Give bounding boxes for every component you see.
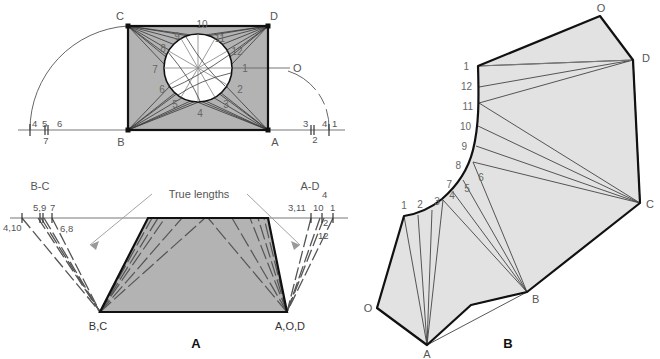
baseline-right-label-1: 1 (332, 118, 337, 129)
top-view-label-B: B (117, 136, 124, 148)
development-label-A: A (423, 348, 431, 359)
right-group-label-10: 10 (313, 202, 324, 213)
drawing-canvas: C D B A O 1 2 3 4 5 6 7 8 9 10 11 12 4 5… (0, 0, 660, 359)
right-group-header-sub: 4 (322, 189, 327, 200)
true-length-diagram-group: True lengths B-C 5,9 7 4,10 6,8 B,C A-D … (3, 180, 348, 351)
circle-point-8: 8 (160, 43, 166, 54)
development-upper-point-1: 1 (463, 61, 469, 72)
development-label-D: D (642, 52, 650, 64)
right-group-label-2: 2 (323, 217, 328, 228)
left-group-label-5-9: 5,9 (33, 202, 46, 213)
development-upper-point-11: 11 (463, 101, 474, 112)
left-construction-arc (30, 26, 128, 130)
development-group: O D C B A O 1 12 11 10 9 8 7 1 2 3 4 5 6… (364, 2, 654, 359)
development-lower-point-4: 4 (449, 190, 455, 201)
development-lower-point-2: 2 (417, 199, 423, 210)
top-view-label-O: O (293, 62, 302, 74)
development-lower-point-3: 3 (434, 196, 440, 207)
development-label-O-bottom: O (364, 302, 373, 314)
right-group-label-1: 1 (330, 202, 335, 213)
development-upper-point-10: 10 (460, 121, 472, 132)
top-view-label-C: C (116, 10, 124, 22)
true-lengths-annotation: True lengths (169, 188, 230, 200)
right-group-apex-label: A,O,D (275, 320, 305, 332)
circle-point-12: 12 (231, 46, 243, 57)
right-group-label-3-11: 3,11 (288, 202, 306, 213)
left-group-label-7: 7 (50, 202, 55, 213)
circle-point-9: 9 (174, 31, 180, 42)
development-upper-point-9: 9 (461, 141, 467, 152)
circle-point-3: 3 (223, 99, 229, 110)
right-group-header: A-D (301, 180, 320, 192)
baseline-right-label-2: 2 (312, 134, 317, 145)
technical-drawing-figure: C D B A O 1 2 3 4 5 6 7 8 9 10 11 12 4 5… (0, 0, 660, 359)
circle-point-6: 6 (159, 84, 165, 95)
development-label-B: B (532, 293, 539, 305)
trapezoid-fill (100, 218, 287, 312)
left-group-apex-label: B,C (89, 320, 107, 332)
left-group-label-6-8: 6,8 (60, 223, 73, 234)
circle-point-1: 1 (242, 63, 248, 74)
baseline-right-label-3: 3 (303, 118, 308, 129)
circle-point-2: 2 (237, 84, 243, 95)
top-view-group: C D B A O 1 2 3 4 5 6 7 8 9 10 11 12 4 5… (18, 10, 345, 148)
baseline-left-label-4: 4 (32, 118, 37, 129)
baseline-left-label-6: 6 (57, 118, 62, 129)
figure-b-caption: B (503, 336, 512, 351)
top-view-label-A: A (271, 136, 279, 148)
circle-point-4: 4 (197, 108, 203, 119)
development-upper-point-8: 8 (455, 160, 461, 171)
baseline-right-label-4: 4 (322, 118, 327, 129)
circle-point-11: 11 (215, 33, 226, 44)
development-label-C: C (646, 198, 654, 210)
circle-point-7: 7 (152, 64, 158, 75)
left-group-header: B-C (31, 180, 50, 192)
right-group-label-12: 12 (318, 230, 329, 241)
development-lower-point-1: 1 (401, 200, 407, 211)
development-label-O-top: O (597, 2, 606, 14)
development-upper-point-12: 12 (461, 81, 473, 92)
baseline-left-label-5: 5 (42, 118, 47, 129)
top-view-label-D: D (270, 10, 278, 22)
development-upper-point-7: 7 (446, 179, 452, 190)
development-lower-point-5: 5 (464, 183, 470, 194)
circle-point-10: 10 (196, 19, 208, 30)
circle-point-5: 5 (172, 99, 178, 110)
left-group-label-4-10: 4,10 (3, 222, 22, 233)
baseline-left-label-7: 7 (43, 135, 48, 146)
figure-a-caption: A (191, 336, 201, 351)
development-lower-point-6: 6 (478, 172, 484, 183)
